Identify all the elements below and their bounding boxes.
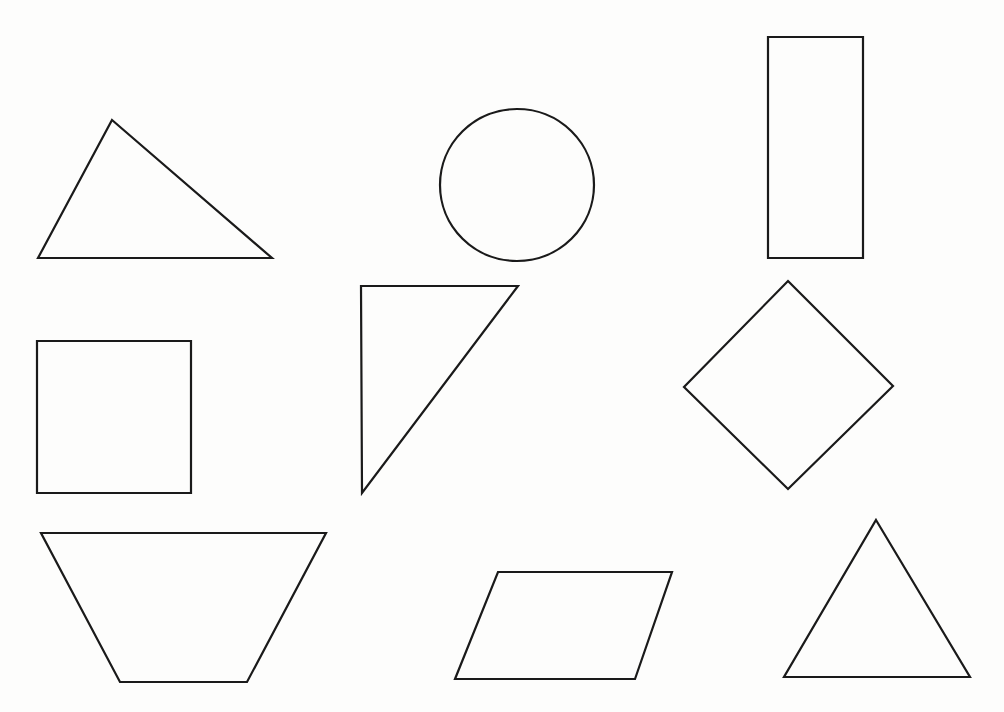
square-shape: [37, 341, 191, 493]
parallelogram-shape: [455, 572, 672, 679]
right-triangle-shape: [361, 286, 518, 493]
inverted-trapezoid-shape: [41, 533, 326, 682]
diamond-rhombus-shape: [684, 281, 893, 489]
scalene-triangle-shape: [38, 120, 272, 258]
shapes-worksheet-page: [0, 0, 1004, 712]
shapes-canvas: [0, 0, 1004, 712]
equilateral-triangle-shape: [784, 520, 970, 677]
vertical-rectangle-shape: [768, 37, 863, 258]
circle-shape: [440, 109, 594, 261]
